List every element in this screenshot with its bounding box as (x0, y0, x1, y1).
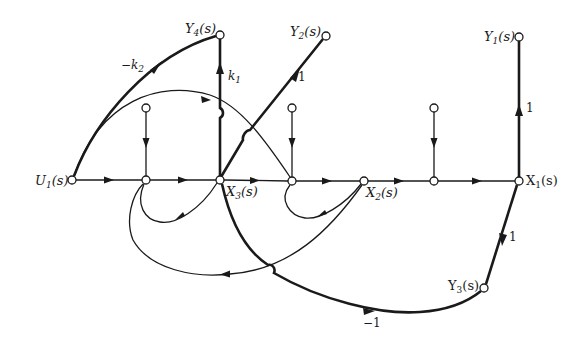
arrow-icon (178, 177, 188, 184)
arrow-icon (104, 177, 114, 184)
label-y4: Y4(s) (185, 21, 216, 38)
node-x1 (515, 177, 523, 185)
label-u1: U1(s) (35, 173, 69, 190)
node-input-3 (430, 104, 438, 112)
arrow-icon (150, 61, 162, 74)
gain-x3-y3: −1 (363, 316, 381, 330)
arrow-icon (431, 138, 438, 148)
label-y3: Y3(s) (447, 278, 479, 295)
edge-x3-y4 (220, 39, 223, 176)
signal-flow-graph: U1(s) X3(s) X2(s) X1(s) Y4(s) Y2(s) Y1(s… (0, 0, 585, 348)
arrow-icon (143, 138, 150, 148)
arrow-icon (472, 178, 482, 185)
node-n1 (142, 176, 150, 184)
node-u1 (68, 176, 76, 184)
label-x2: X2(s) (365, 185, 398, 202)
node-y2 (322, 32, 330, 40)
arrow-icon (216, 62, 224, 74)
gain-x3-y4: k1 (228, 69, 241, 85)
arrow-icon (220, 271, 230, 278)
input-branches (143, 112, 438, 177)
gain-x1-y3: 1 (509, 230, 517, 244)
edge-x3-y3 (222, 184, 481, 312)
node-input-1 (142, 104, 150, 112)
arrow-icon (250, 177, 260, 184)
node-x3 (216, 176, 224, 184)
arrow-icon (289, 138, 296, 148)
gain-u1-y4: −k2 (121, 58, 144, 74)
node-input-2 (288, 104, 296, 112)
node-x2 (360, 177, 368, 185)
label-x3: X3(s) (225, 184, 258, 201)
label-y2: Y2(s) (290, 24, 321, 41)
node-n3 (430, 177, 438, 185)
node-y1 (515, 33, 523, 41)
edge-x3-y2 (221, 39, 323, 177)
arrow-icon (394, 178, 404, 185)
arrow-icon (515, 104, 523, 116)
arrow-icon (201, 96, 211, 103)
gain-x1-y1: 1 (526, 101, 534, 115)
label-y1: Y1(s) (484, 29, 515, 46)
node-y4 (216, 31, 224, 39)
node-n2 (288, 177, 296, 185)
edge-u1-n2 (74, 90, 290, 177)
node-y3 (480, 284, 488, 292)
arrow-icon (317, 210, 327, 217)
label-x1: X1(s) (526, 173, 558, 190)
arrow-icon (322, 178, 332, 185)
gain-x3-y2: 1 (298, 70, 306, 84)
